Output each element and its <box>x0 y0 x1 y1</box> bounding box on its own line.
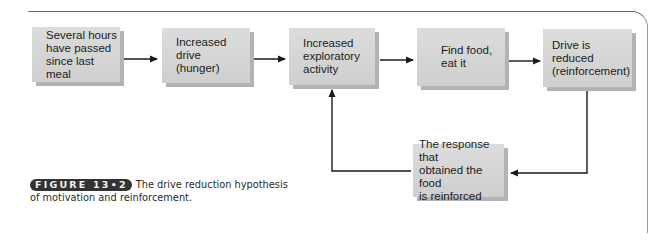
node-response-reinforced: The response that obtained the food is r… <box>413 144 504 197</box>
arrow-n5-n6 <box>511 91 587 173</box>
node-label: Several hours have passed since last mea… <box>46 29 120 81</box>
node-increased-drive: Increased drive (hunger) <box>162 28 250 83</box>
node-drive-reduced: Drive is reduced (reinforcement) <box>543 29 632 87</box>
node-label: The response that obtained the food is r… <box>419 138 504 203</box>
node-find-food: Find food, eat it <box>417 28 505 86</box>
arrow-n6-n3 <box>332 90 411 171</box>
node-hours-passed: Several hours have passed since last mea… <box>32 27 120 82</box>
node-label: Drive is reduced (reinforcement) <box>552 39 632 78</box>
figure-number-badge: FIGURE 13•2 <box>30 179 132 191</box>
node-exploratory-activity: Increased exploratory activity <box>289 28 375 85</box>
node-label: Increased drive (hunger) <box>176 36 250 75</box>
figure-caption: FIGURE 13•2The drive reduction hypothesi… <box>30 178 290 204</box>
node-label: Find food, eat it <box>441 44 492 70</box>
node-label: Increased exploratory activity <box>303 37 360 76</box>
